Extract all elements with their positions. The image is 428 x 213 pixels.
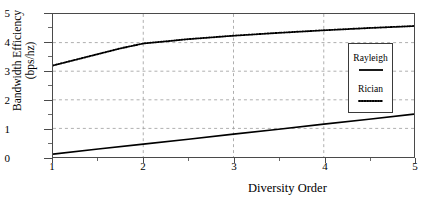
y-tick-mark-5 xyxy=(44,13,52,14)
y-tick-mark-4 xyxy=(44,42,52,43)
y-tick-mark-2 xyxy=(44,100,52,101)
y-tick-label-0: 0 xyxy=(0,153,10,164)
x-tick-label-5: 5 xyxy=(405,161,425,172)
x-tick-minor xyxy=(279,158,280,161)
x-tick-minor xyxy=(97,158,98,161)
legend-entry-rayleigh: Rayleigh xyxy=(353,53,387,73)
y-tick-mark-3 xyxy=(44,71,52,72)
x-tick-label-1: 1 xyxy=(42,161,62,172)
legend-swatch-dotted-icon xyxy=(358,98,384,104)
y-tick-label-3: 3 xyxy=(0,66,10,77)
x-tick-label-3: 3 xyxy=(224,161,244,172)
legend-swatch-solid-icon xyxy=(358,67,384,73)
y-axis-label: Bandwidth Efficiency (bps/hz) xyxy=(11,0,36,136)
y-tick-label-2: 2 xyxy=(0,95,10,106)
y-tick-label-1: 1 xyxy=(0,124,10,135)
x-tick-label-2: 2 xyxy=(133,161,153,172)
x-tick-label-4: 4 xyxy=(315,161,335,172)
y-tick-label-4: 4 xyxy=(0,37,10,48)
chart-figure: 5 4 3 2 1 0 Bandwidth Efficiency (bps/hz… xyxy=(0,0,428,213)
x-tick-minor xyxy=(188,158,189,161)
y-tick-mark-1 xyxy=(44,129,52,130)
x-axis-label: Diversity Order xyxy=(248,182,327,195)
y-axis-label-line2: (bps/hz) xyxy=(23,0,36,136)
y-tick-mark-0 xyxy=(44,158,52,159)
series-rayleigh xyxy=(53,114,414,154)
chart-legend: Rayleigh Rician xyxy=(348,43,393,113)
x-tick-minor xyxy=(370,158,371,161)
legend-label-rician: Rician xyxy=(358,84,383,95)
legend-entry-rician: Rician xyxy=(358,84,384,104)
y-axis-label-line1: Bandwidth Efficiency xyxy=(11,10,23,111)
y-tick-label-5: 5 xyxy=(0,8,10,19)
legend-label-rayleigh: Rayleigh xyxy=(353,53,387,64)
